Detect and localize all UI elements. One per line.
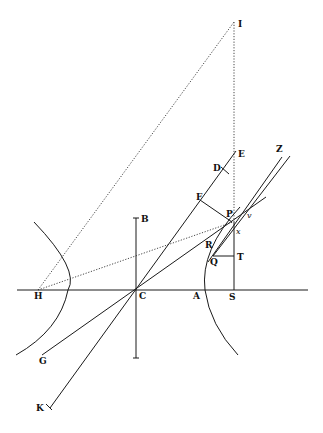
label-v: v (247, 211, 252, 220)
label-F: F (196, 192, 203, 202)
label-I: I (238, 19, 242, 29)
label-R: R (205, 240, 213, 250)
label-D: D (213, 163, 221, 173)
label-E: E (238, 149, 245, 159)
label-B: B (141, 214, 149, 224)
label-Q: Q (210, 257, 218, 267)
label-G: G (39, 356, 47, 366)
label-K: K (36, 403, 45, 413)
label-T: T (237, 252, 244, 262)
right-hyperbola-branch (204, 207, 240, 355)
hyperbola-diagram: I E D Z F P v x R Q T B H C A S G K (0, 0, 323, 433)
line-GCv (42, 197, 266, 355)
label-H: H (34, 291, 43, 301)
label-A: A (192, 291, 201, 301)
label-Z: Z (276, 144, 283, 154)
label-P: P (226, 209, 233, 219)
left-hyperbola-branch (16, 222, 70, 355)
diameter-line-KD (50, 151, 236, 408)
line-to-Z-2 (213, 156, 290, 256)
label-S: S (229, 292, 236, 302)
label-x: x (236, 227, 241, 236)
label-C: C (139, 291, 146, 301)
